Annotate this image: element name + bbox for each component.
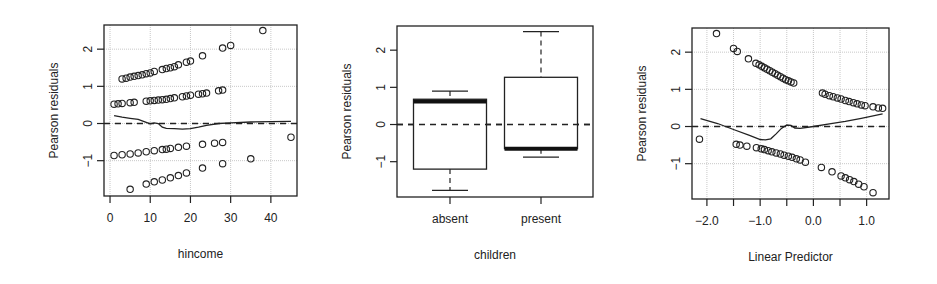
data-point: [131, 99, 137, 105]
data-point: [769, 149, 775, 155]
data-point: [802, 159, 808, 165]
residual-plots-figure: −1012010203040hincomePearson residuals −…: [0, 0, 937, 284]
data-point: [199, 53, 205, 59]
y-tick-label: 0: [374, 121, 388, 128]
y-tick-label: −1: [81, 154, 95, 168]
data-point: [175, 144, 181, 150]
data-point: [829, 169, 835, 175]
y-tick-label: 2: [374, 47, 388, 54]
data-point: [127, 186, 133, 192]
x-tick-label: 1.0: [858, 214, 875, 228]
x-axis-title: children: [474, 248, 516, 262]
data-point: [203, 90, 209, 96]
data-point: [773, 150, 779, 156]
x-tick-label: 10: [144, 211, 158, 225]
data-point: [846, 98, 852, 104]
x-tick-label: present: [521, 212, 562, 226]
y-axis-title: Pearson residuals: [47, 62, 61, 158]
data-point: [143, 181, 149, 187]
y-tick-label: 2: [81, 46, 95, 53]
data-point: [818, 164, 824, 170]
x-tick-label: 40: [264, 211, 278, 225]
data-point: [111, 152, 117, 158]
x-tick-label: 0.0: [805, 214, 822, 228]
data-point: [862, 102, 868, 108]
x-axis-title: hincome: [178, 247, 224, 261]
data-point: [219, 139, 225, 145]
boxplot-absent: [414, 91, 487, 190]
y-axis-title: Pearson residuals: [635, 65, 649, 161]
y-tick-label: 0: [81, 120, 95, 127]
data-point: [830, 94, 836, 100]
data-point: [119, 100, 125, 106]
boxplot-present: [505, 32, 578, 158]
data-point: [744, 143, 750, 149]
data-point: [127, 151, 133, 157]
plot-frame: [692, 28, 889, 199]
data-point: [199, 165, 205, 171]
data-point: [119, 152, 125, 158]
data-point: [854, 101, 860, 107]
iqr-box: [505, 77, 578, 148]
data-point: [143, 149, 149, 155]
data-point: [183, 59, 189, 65]
x-axis-title: Linear Predictor: [748, 250, 833, 264]
y-tick-label: −1: [669, 157, 683, 171]
x-tick-label: 30: [224, 211, 238, 225]
panel-hincome: −1012010203040hincomePearson residuals: [47, 25, 297, 261]
y-tick-label: 1: [669, 86, 683, 93]
data-point: [838, 96, 844, 102]
panel-linear-predictor: −1012−2.0−1.00.01.0Linear PredictorPears…: [635, 28, 889, 264]
data-point: [151, 179, 157, 185]
data-point: [219, 160, 225, 166]
data-point: [167, 145, 173, 151]
data-point: [219, 87, 225, 93]
panel-children: −1012absentpresentchildrenPearson residu…: [340, 26, 593, 262]
data-point: [696, 136, 702, 142]
data-point: [219, 45, 225, 51]
data-point: [789, 154, 795, 160]
x-tick-label: −1.0: [748, 214, 772, 228]
data-point: [175, 62, 181, 68]
x-tick-label: 0: [107, 211, 114, 225]
data-point: [167, 65, 173, 71]
data-point: [260, 27, 266, 33]
y-tick-label: 2: [669, 49, 683, 56]
x-tick-label: 20: [184, 211, 198, 225]
data-point: [123, 75, 129, 81]
y-tick-label: 1: [81, 83, 95, 90]
y-tick-label: −1: [374, 155, 388, 169]
x-tick-label: absent: [432, 212, 469, 226]
data-point: [139, 72, 145, 78]
data-point: [171, 63, 177, 69]
data-point: [199, 141, 205, 147]
data-point: [151, 68, 157, 74]
data-point: [288, 134, 294, 140]
data-point: [167, 175, 173, 181]
data-point: [737, 142, 743, 148]
smoother-line: [114, 116, 291, 129]
data-point: [171, 95, 177, 101]
data-point: [159, 66, 165, 72]
data-point: [175, 172, 181, 178]
data-point: [183, 170, 189, 176]
y-tick-label: 0: [669, 123, 683, 130]
data-point: [713, 30, 719, 36]
data-point: [151, 147, 157, 153]
iqr-box: [414, 99, 487, 169]
data-point: [135, 150, 141, 156]
data-point: [879, 105, 885, 111]
data-point: [211, 140, 217, 146]
figure-canvas: −1012010203040hincomePearson residuals −…: [0, 0, 937, 284]
x-tick-label: −2.0: [695, 214, 719, 228]
y-tick-label: 1: [374, 84, 388, 91]
y-axis-title: Pearson residuals: [340, 63, 354, 159]
data-point: [183, 143, 189, 149]
data-point: [870, 189, 876, 195]
data-point: [159, 177, 165, 183]
data-point: [745, 56, 751, 62]
data-point: [781, 152, 787, 158]
